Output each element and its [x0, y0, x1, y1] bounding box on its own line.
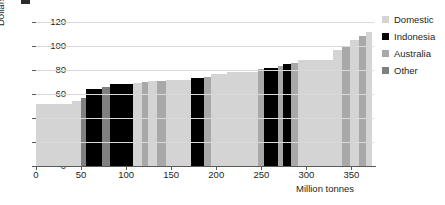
legend-item-indonesia: Indonesia: [382, 29, 435, 44]
x-axis-title: Million tonnes: [296, 183, 354, 194]
bar-segment: [133, 83, 142, 166]
bar-segment: [264, 68, 278, 166]
legend-label: Domestic: [394, 15, 434, 25]
legend-label: Other: [394, 66, 418, 76]
x-tick-label: 250: [253, 170, 269, 180]
x-tick-label: 100: [118, 170, 134, 180]
bar-segment: [110, 84, 133, 166]
bar-segment: [350, 40, 359, 166]
gridline: [36, 94, 374, 95]
bar-segment: [291, 63, 298, 166]
bars-layer: [36, 16, 374, 166]
legend-item-australia: Australia: [382, 46, 435, 61]
gridline: [36, 142, 374, 143]
x-tick-label: 200: [208, 170, 224, 180]
legend: DomesticIndonesiaAustraliaOther: [382, 12, 435, 80]
gridline: [36, 118, 374, 119]
x-tick-label: 150: [163, 170, 179, 180]
x-tick-label: 300: [298, 170, 314, 180]
bar-segment: [204, 77, 211, 166]
plot-area: [36, 16, 374, 166]
bar-segment: [283, 64, 291, 166]
bar-segment: [366, 32, 372, 166]
gridline: [36, 70, 374, 71]
bar-segment: [359, 36, 366, 166]
x-tick-label: 350: [344, 170, 360, 180]
cropped-header-artifact: [21, 0, 30, 4]
legend-swatch-icon: [382, 33, 389, 40]
x-tick-label: 0: [33, 170, 38, 180]
bar-segment: [211, 74, 227, 166]
bar-segment: [191, 78, 204, 166]
legend-item-domestic: Domestic: [382, 12, 435, 27]
bar-segment: [102, 87, 110, 166]
gridline: [36, 22, 374, 23]
legend-swatch-icon: [382, 16, 389, 23]
legend-item-other: Other: [382, 63, 435, 78]
gridline: [36, 46, 374, 47]
legend-label: Indonesia: [394, 32, 435, 42]
x-tick-label: 50: [76, 170, 87, 180]
bar-segment: [333, 50, 342, 166]
bar-segment: [166, 80, 191, 166]
bar-segment: [342, 46, 349, 166]
bar-segment: [86, 89, 102, 166]
supply-cost-curve-chart: Dollars per tonne (2013) 020406080100120…: [0, 0, 445, 205]
legend-swatch-icon: [382, 67, 389, 74]
y-axis-title: Dollars per tonne (2013): [0, 0, 6, 26]
bar-segment: [72, 101, 81, 166]
x-axis-line: [36, 166, 376, 167]
bar-segment: [36, 104, 72, 166]
bar-segment: [227, 72, 258, 166]
legend-label: Australia: [394, 49, 431, 59]
legend-swatch-icon: [382, 50, 389, 57]
bar-segment: [298, 60, 333, 166]
